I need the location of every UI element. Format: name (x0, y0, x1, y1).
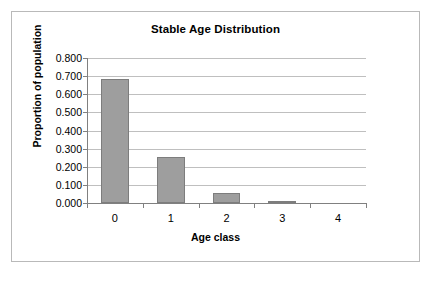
x-tick-label: 2 (223, 212, 229, 224)
y-tick-label: 0.500 (56, 106, 82, 118)
bar[interactable] (213, 193, 241, 203)
y-axis-title: Proportion of population (31, 11, 43, 161)
x-tick-mark (143, 203, 144, 208)
y-tick-label: 0.700 (56, 70, 82, 82)
x-tick-mark (310, 203, 311, 208)
x-tick-mark (366, 203, 367, 208)
x-tick-mark (87, 203, 88, 208)
bar-slot (199, 58, 255, 203)
bar[interactable] (157, 157, 185, 203)
bar-slot (254, 58, 310, 203)
chart-frame: Stable Age Distribution Proportion of po… (11, 11, 420, 262)
chart-title: Stable Age Distribution (12, 23, 419, 35)
x-axis-ticks: 01234 (87, 203, 366, 209)
bar-slot (143, 58, 199, 203)
y-tick-label: 0.600 (56, 88, 82, 100)
x-tick-mark (254, 203, 255, 208)
x-tick-mark (199, 203, 200, 208)
x-tick-label: 3 (279, 212, 285, 224)
x-axis-title: Age class (12, 231, 419, 243)
bar-series (87, 58, 366, 203)
x-tick-label: 1 (168, 212, 174, 224)
y-tick-label: 0.100 (56, 179, 82, 191)
bar-slot (87, 58, 143, 203)
y-tick-label: 0.800 (56, 52, 82, 64)
bar[interactable] (101, 79, 129, 203)
bar-slot (310, 58, 366, 203)
x-tick-label: 4 (335, 212, 341, 224)
y-tick-label: 0.300 (56, 143, 82, 155)
y-tick-label: 0.000 (56, 197, 82, 209)
x-tick-label: 0 (112, 212, 118, 224)
plot-area: 0.8000.7000.6000.5000.4000.3000.2000.100… (87, 58, 366, 203)
y-tick-label: 0.400 (56, 125, 82, 137)
y-tick-label: 0.200 (56, 161, 82, 173)
